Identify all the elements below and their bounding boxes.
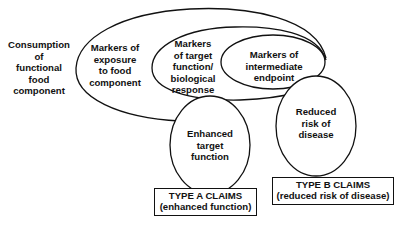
type-a-claims-title: TYPE A CLAIMS xyxy=(155,190,256,201)
type-b-claims-subtitle: (reduced risk of disease) xyxy=(273,190,393,201)
reduced-risk-label: Reduced risk of disease xyxy=(282,106,350,141)
type-a-claims-box: TYPE A CLAIMS (enhanced function) xyxy=(154,188,257,216)
intermediate-endpoint-markers-label: Markers of intermediate endpoint xyxy=(230,49,318,84)
enhanced-function-label: Enhanced target function xyxy=(176,128,244,163)
type-b-claims-title: TYPE B CLAIMS xyxy=(273,179,393,190)
exposure-markers-label: Markers of exposure to food component xyxy=(80,42,150,88)
consumption-label: Consumption of functional food component xyxy=(2,39,76,97)
type-b-claims-box: TYPE B CLAIMS (reduced risk of disease) xyxy=(272,177,394,205)
type-a-claims-subtitle: (enhanced function) xyxy=(155,201,256,212)
target-function-markers-label: Markers of target function/ biological r… xyxy=(156,38,230,96)
